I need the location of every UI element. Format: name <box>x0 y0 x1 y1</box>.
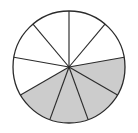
fraction-circle-svg: Fraction circle divided into nine equal … <box>0 0 138 133</box>
fraction-circle-figure: Fraction circle divided into nine equal … <box>0 0 138 133</box>
